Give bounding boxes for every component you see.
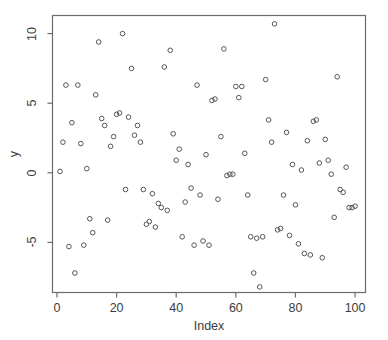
data-point (153, 225, 158, 230)
data-point (70, 120, 75, 125)
data-point (239, 84, 244, 89)
data-point (257, 285, 262, 290)
data-point (305, 138, 310, 143)
data-point (326, 158, 331, 163)
data-point (111, 134, 116, 139)
data-point (287, 233, 292, 238)
data-point (168, 48, 173, 53)
data-point (177, 147, 182, 152)
data-point (132, 133, 137, 138)
data-point (323, 137, 328, 142)
data-point (216, 197, 221, 202)
data-point (162, 65, 167, 70)
data-point (123, 187, 128, 192)
plot-canvas (0, 0, 388, 340)
y-axis-title: y (7, 151, 21, 157)
data-point (263, 77, 268, 82)
y-tick-label: 0 (25, 169, 39, 176)
data-point (102, 123, 107, 128)
data-point (93, 93, 98, 98)
y-tick-label: -5 (25, 237, 39, 248)
data-point (344, 165, 349, 170)
data-point (242, 151, 247, 156)
data-point (64, 83, 69, 88)
data-point (284, 130, 289, 135)
data-point (234, 84, 239, 89)
data-point (82, 243, 87, 248)
data-point (231, 172, 236, 177)
data-point (290, 162, 295, 167)
data-point (251, 271, 256, 276)
data-point (186, 162, 191, 167)
data-point (76, 83, 81, 88)
data-point (201, 239, 206, 244)
data-point (99, 116, 104, 121)
data-point (120, 31, 125, 36)
x-tick-label: 0 (53, 301, 60, 315)
x-tick-label: 40 (169, 301, 183, 315)
data-point (302, 251, 307, 256)
data-point (341, 190, 346, 195)
data-point (317, 161, 322, 166)
data-point (281, 193, 286, 198)
data-point (189, 186, 194, 191)
data-point (67, 244, 72, 249)
data-point (96, 40, 101, 45)
data-point (183, 200, 188, 205)
y-tick-label: 5 (25, 100, 39, 107)
data-point (245, 193, 250, 198)
axis-ticks (48, 34, 356, 298)
data-point (237, 95, 242, 100)
data-point (61, 140, 66, 145)
data-point (308, 253, 313, 258)
data-point (58, 169, 63, 174)
data-point (207, 243, 212, 248)
data-point (156, 201, 161, 206)
x-tick-label: 80 (288, 301, 302, 315)
data-point (135, 123, 140, 128)
data-point (204, 152, 209, 157)
data-point (260, 235, 265, 240)
data-point (195, 83, 200, 88)
data-point (150, 191, 155, 196)
data-point (84, 166, 89, 171)
data-point (147, 219, 152, 224)
data-point (126, 115, 131, 120)
data-point (141, 187, 146, 192)
data-point (269, 140, 274, 145)
data-point (222, 47, 227, 52)
x-tick-label: 60 (229, 301, 243, 315)
data-point (296, 241, 301, 246)
data-point (320, 255, 325, 260)
data-point (266, 118, 271, 123)
data-point (105, 218, 110, 223)
data-point (198, 193, 203, 198)
data-point (299, 168, 304, 173)
x-axis-title: Index (194, 319, 225, 333)
data-point (87, 216, 92, 221)
data-point (192, 243, 197, 248)
data-point (165, 208, 170, 213)
data-point (254, 236, 259, 241)
plot-frame (53, 16, 366, 293)
data-point (73, 271, 78, 276)
scatter-plot-figure: 020406080100 -50510 Index y (0, 0, 388, 340)
data-point (248, 235, 253, 240)
data-point (108, 144, 113, 149)
data-point (138, 140, 143, 145)
data-points (58, 22, 358, 290)
data-point (129, 66, 134, 71)
x-tick-label: 20 (110, 301, 124, 315)
data-point (79, 141, 84, 146)
data-point (90, 230, 95, 235)
data-point (335, 74, 340, 79)
y-tick-label: 10 (25, 27, 39, 41)
data-point (174, 158, 179, 163)
data-point (219, 134, 224, 139)
data-point (180, 235, 185, 240)
data-point (293, 203, 298, 208)
data-point (159, 205, 164, 210)
data-point (332, 215, 337, 220)
plot-border (53, 16, 366, 293)
data-point (171, 132, 176, 137)
